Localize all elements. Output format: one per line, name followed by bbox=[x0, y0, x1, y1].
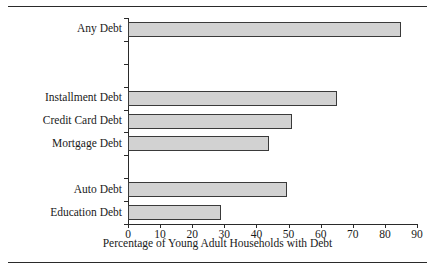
top-rule bbox=[8, 6, 427, 7]
y-category-label: Education Debt bbox=[50, 207, 122, 219]
bar bbox=[128, 136, 269, 151]
y-tick bbox=[124, 41, 128, 42]
y-tick bbox=[124, 18, 128, 19]
y-tick bbox=[124, 110, 128, 111]
y-tick bbox=[124, 201, 128, 202]
y-category-label: Credit Card Debt bbox=[43, 115, 122, 127]
bar bbox=[128, 91, 337, 106]
y-category-label: Any Debt bbox=[77, 23, 122, 35]
y-tick bbox=[124, 87, 128, 88]
y-tick bbox=[124, 155, 128, 156]
x-axis-title: Percentage of Young Adult Households wit… bbox=[0, 238, 435, 250]
y-tick bbox=[124, 178, 128, 179]
bar bbox=[128, 182, 287, 197]
y-category-label: Mortgage Debt bbox=[52, 138, 122, 150]
bottom-rule bbox=[8, 262, 427, 263]
figure: Types of Debt 0102030405060708090 Any De… bbox=[0, 0, 435, 280]
bar bbox=[128, 114, 292, 129]
bar bbox=[128, 22, 401, 37]
bar bbox=[128, 205, 221, 220]
x-axis-line bbox=[128, 224, 417, 225]
y-category-label: Auto Debt bbox=[74, 184, 122, 196]
y-tick bbox=[124, 64, 128, 65]
plot-area: 0102030405060708090 Any DebtInstallment … bbox=[128, 18, 417, 224]
y-category-label: Installment Debt bbox=[45, 92, 122, 104]
y-tick bbox=[124, 132, 128, 133]
